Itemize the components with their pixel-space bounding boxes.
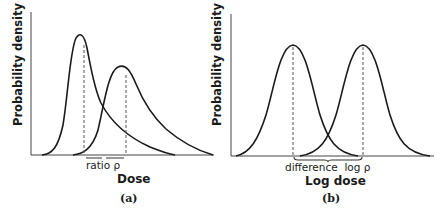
panel-b-annotation: difference log ρ	[285, 161, 370, 173]
panel-a-annotation: ratio ρ	[86, 159, 120, 171]
panel-a-axes	[31, 12, 214, 155]
panel-b-axes	[231, 14, 434, 156]
panel-b-curve-2	[300, 45, 430, 156]
panel-b-median-markers	[293, 47, 363, 156]
panel-b-y-axis-label: Probability density	[210, 3, 224, 126]
panel-b-x-axis-label: Log dose	[305, 174, 366, 188]
panel-b-label: (b)	[322, 192, 340, 205]
panel-a-x-axis-label: Dose	[117, 172, 151, 186]
panel-a-curve-1	[42, 35, 175, 155]
panel-a-label: (a)	[120, 192, 138, 205]
panel-a-y-axis-label: Probability density	[11, 3, 25, 126]
